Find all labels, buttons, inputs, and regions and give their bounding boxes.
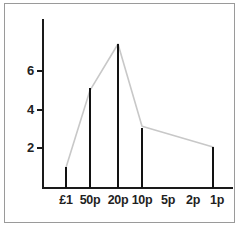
bar-20p: [117, 44, 119, 188]
bar-10p: [141, 128, 143, 188]
x-tick-label-1p: 1p: [202, 194, 232, 207]
bar-1p: [212, 147, 214, 188]
chart-figure: 6 4 2 £1 50p 20p 10p 5p 2p 1p: [0, 0, 240, 227]
x-tick-label-50p: 50p: [75, 194, 105, 207]
plot-area: 6 4 2 £1 50p 20p 10p 5p 2p 1p: [0, 0, 240, 227]
bar-50p: [89, 88, 91, 188]
bar-pound-1: [65, 167, 67, 188]
